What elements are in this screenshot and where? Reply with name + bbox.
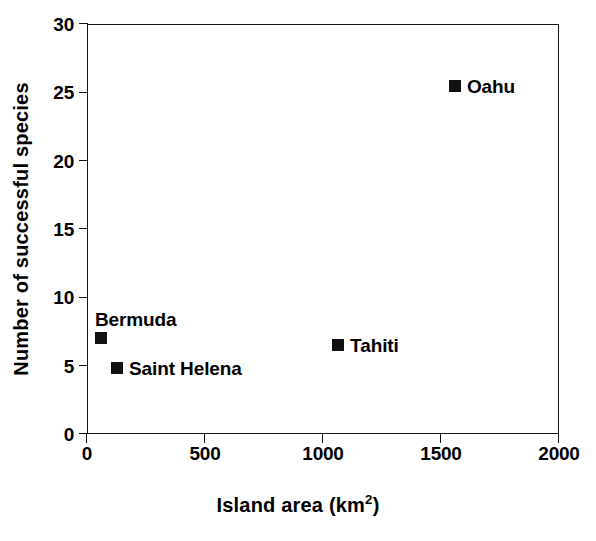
y-tick-label: 15 xyxy=(53,220,74,239)
x-tick-label: 1500 xyxy=(420,444,461,463)
data-point-marker xyxy=(332,339,344,351)
x-tick-mark xyxy=(86,434,87,443)
data-point-label: Bermuda xyxy=(95,310,177,329)
x-tick-label: 500 xyxy=(189,444,220,463)
data-point-label: Saint Helena xyxy=(129,359,242,378)
x-tick-mark xyxy=(440,434,441,443)
x-axis-title-tail: ) xyxy=(373,494,380,516)
y-tick-label: 0 xyxy=(64,425,74,444)
y-axis-title: Number of successful species xyxy=(10,19,33,439)
y-tick-mark xyxy=(79,92,88,93)
y-tick-mark xyxy=(79,23,88,24)
y-tick-label: 5 xyxy=(64,356,74,375)
data-point-marker xyxy=(449,80,461,92)
y-tick-label: 20 xyxy=(53,151,74,170)
x-axis-title-base: Island area (km xyxy=(216,494,365,516)
data-point-label: Oahu xyxy=(467,77,515,96)
y-tick-mark xyxy=(79,365,88,366)
y-tick-mark xyxy=(79,160,88,161)
data-point-label: Tahiti xyxy=(350,336,399,355)
x-axis-title: Island area (km2) xyxy=(0,494,596,517)
x-tick-mark xyxy=(322,434,323,443)
x-tick-label: 2000 xyxy=(538,444,579,463)
y-tick-mark xyxy=(79,297,88,298)
x-tick-mark xyxy=(558,434,559,443)
x-axis-title-exponent: 2 xyxy=(365,492,373,507)
scatter-chart-figure: 051015202530 0500100015002000 BermudaSai… xyxy=(0,0,596,541)
data-point-marker xyxy=(111,362,123,374)
y-tick-label: 30 xyxy=(53,15,74,34)
y-tick-label: 10 xyxy=(53,288,74,307)
x-tick-label: 1000 xyxy=(302,444,343,463)
x-tick-label: 0 xyxy=(82,444,92,463)
data-point-marker xyxy=(95,332,107,344)
y-tick-label: 25 xyxy=(53,83,74,102)
y-tick-mark xyxy=(79,228,88,229)
x-tick-mark xyxy=(204,434,205,443)
